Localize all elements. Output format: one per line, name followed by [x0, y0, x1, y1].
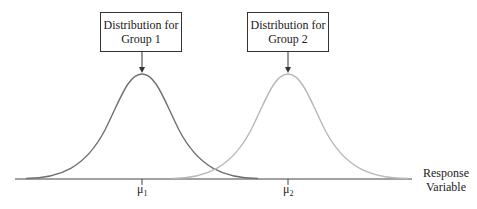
box2-line1: Distribution for [248, 18, 328, 32]
mu1-label: μ1 [137, 182, 147, 198]
arrowhead-group1 [139, 67, 145, 73]
axis-label-line2: Variable [415, 180, 477, 194]
distribution-curve-group1 [26, 74, 258, 179]
mu2-label: μ2 [283, 182, 293, 198]
label-box-group2: Distribution for Group 2 [247, 12, 329, 52]
axis-label: Response Variable [415, 166, 477, 194]
diagram-canvas [0, 0, 477, 209]
box1-line2: Group 1 [101, 32, 181, 46]
distribution-curve-group2 [172, 74, 408, 179]
label-box-group1: Distribution for Group 1 [100, 12, 182, 52]
axis-label-line1: Response [415, 166, 477, 180]
box2-line2: Group 2 [248, 32, 328, 46]
arrowhead-group2 [285, 67, 291, 73]
box1-line1: Distribution for [101, 18, 181, 32]
